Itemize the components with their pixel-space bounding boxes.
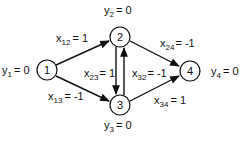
node-2: 2 [110,27,130,47]
node-1-label: 1 [44,64,50,76]
label-x23: x23= 1 [84,67,115,82]
label-x34: x34= 1 [154,94,186,109]
label-x24: x24= -1 [160,37,195,52]
label-x32: x32= -1 [132,67,167,82]
node-1: 1 [37,60,57,80]
network-flow-diagram: 1 2 3 4 y1= 0 y2= 0 y3= 0 y4= 0 x12= 1 x… [0,0,247,147]
label-x13: x13= -1 [48,90,84,105]
node-3-label: 3 [117,99,123,111]
label-y2: y2= 0 [104,4,132,19]
node-4: 4 [180,61,200,81]
label-y4: y4= 0 [211,65,239,80]
label-x12: x12= 1 [56,32,88,47]
node-3: 3 [110,95,130,115]
label-y3: y3= 0 [104,119,132,134]
node-4-label: 4 [187,65,193,77]
label-y1: y1= 0 [2,64,30,79]
node-2-label: 2 [117,31,123,43]
